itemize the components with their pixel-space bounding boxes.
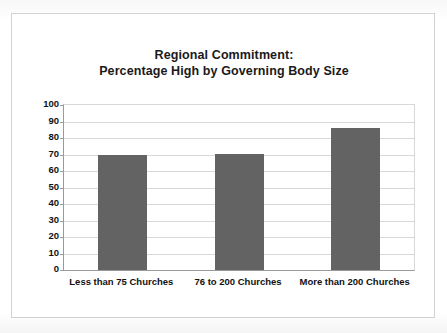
y-axis-tick-label: 50 xyxy=(25,182,59,192)
y-axis-tick-mark xyxy=(60,254,64,255)
chart-frame: Regional Commitment: Percentage High by … xyxy=(11,13,435,318)
bar xyxy=(331,128,380,270)
y-axis-tick-mark xyxy=(60,155,64,156)
y-axis-tick-labels: 1009080706050403020100 xyxy=(18,104,59,270)
y-axis-tick-mark xyxy=(60,204,64,205)
x-axis-tick-label: 76 to 200 Churches xyxy=(180,276,297,288)
chart-title: Regional Commitment: Percentage High by … xyxy=(12,47,436,79)
y-axis-tick-mark xyxy=(60,138,64,139)
y-axis-tick-mark xyxy=(60,270,64,271)
bar xyxy=(215,154,264,270)
y-axis-tick-label: 0 xyxy=(25,264,59,274)
y-axis-tick-label: 80 xyxy=(25,132,59,142)
chart-title-line-1: Regional Commitment: xyxy=(12,47,436,63)
plot-area xyxy=(63,104,415,271)
y-axis-tick-label: 30 xyxy=(25,215,59,225)
y-axis-tick-mark xyxy=(60,171,64,172)
y-axis-tick-label: 20 xyxy=(25,231,59,241)
bar xyxy=(98,155,147,270)
y-axis-tick-label: 10 xyxy=(25,248,59,258)
y-axis-tick-label: 40 xyxy=(25,198,59,208)
y-axis-tick-label: 70 xyxy=(25,149,59,159)
y-axis-tick-mark xyxy=(60,237,64,238)
y-axis-tick-mark xyxy=(60,122,64,123)
y-axis-tick-mark xyxy=(60,221,64,222)
y-axis-tick-mark xyxy=(60,188,64,189)
y-axis-tick-mark xyxy=(60,105,64,106)
y-axis-tick-label: 60 xyxy=(25,165,59,175)
x-axis-tick-label: Less than 75 Churches xyxy=(63,276,180,288)
y-axis-tick-label: 100 xyxy=(25,99,59,109)
x-axis-tick-label: More than 200 Churches xyxy=(296,276,413,288)
chart-title-line-2: Percentage High by Governing Body Size xyxy=(12,63,436,79)
y-axis-tick-label: 90 xyxy=(25,116,59,126)
gridline xyxy=(64,122,414,123)
x-axis-tick-labels: Less than 75 Churches76 to 200 ChurchesM… xyxy=(63,276,413,292)
chart-screenshot: Regional Commitment: Percentage High by … xyxy=(0,0,447,333)
